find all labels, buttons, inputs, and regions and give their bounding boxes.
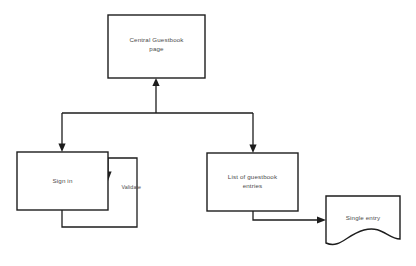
edge-label-validate: Validate — [122, 184, 142, 190]
node-central-guestbook-page-label-line1: Central Guestbook — [129, 36, 184, 43]
node-list-of-guestbook-entries-label-line1: List of guestbook — [228, 173, 278, 180]
arrowhead-to-single-entry — [317, 216, 326, 223]
flow-diagram-canvas: Central Guestbook page Sign in Validate … — [0, 0, 416, 266]
node-single-entry[interactable]: Single entry — [326, 196, 400, 244]
arrowhead-to-list — [249, 145, 256, 154]
connector-list-to-single — [253, 211, 318, 220]
arrowhead-to-signin — [58, 144, 65, 153]
node-sign-in[interactable]: Sign in — [17, 152, 108, 210]
node-sign-in-label-line1: Sign in — [53, 177, 73, 184]
node-list-of-guestbook-entries-label-line2: entries — [243, 182, 263, 189]
arrowhead-to-central — [152, 78, 159, 86]
node-single-entry-label: Single entry — [346, 214, 381, 221]
node-central-guestbook-page-label-line2: page — [149, 45, 164, 52]
node-central-guestbook-page[interactable]: Central Guestbook page — [108, 15, 205, 78]
node-list-of-guestbook-entries[interactable]: List of guestbook entries — [207, 153, 298, 211]
